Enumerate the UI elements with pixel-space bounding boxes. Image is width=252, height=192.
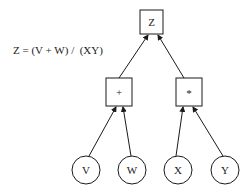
edge-y-to-times <box>193 107 223 156</box>
svg-text:V: V <box>82 164 90 176</box>
tree-graphic: Z + * V W X Y <box>0 0 252 192</box>
node-x: X <box>164 156 192 184</box>
node-w: W <box>118 156 146 184</box>
node-plus-operator: + <box>106 78 132 106</box>
svg-text:Y: Y <box>221 164 229 176</box>
node-v: V <box>72 156 100 184</box>
edge-plus-to-root <box>119 35 148 78</box>
edge-times-to-root <box>158 35 184 78</box>
svg-text:*: * <box>186 87 192 99</box>
node-root: Z <box>140 10 163 34</box>
edge-w-to-plus <box>123 107 131 156</box>
svg-text:Z: Z <box>148 16 155 28</box>
svg-text:W: W <box>127 164 138 176</box>
svg-text:+: + <box>116 86 122 98</box>
node-y: Y <box>211 156 239 184</box>
edge-x-to-times <box>176 107 183 156</box>
expression-tree-diagram: Z = (V + W) / (XY) Z + <box>0 0 252 192</box>
node-times-operator: * <box>176 78 202 106</box>
svg-text:X: X <box>174 164 182 176</box>
edge-v-to-plus <box>89 107 116 156</box>
